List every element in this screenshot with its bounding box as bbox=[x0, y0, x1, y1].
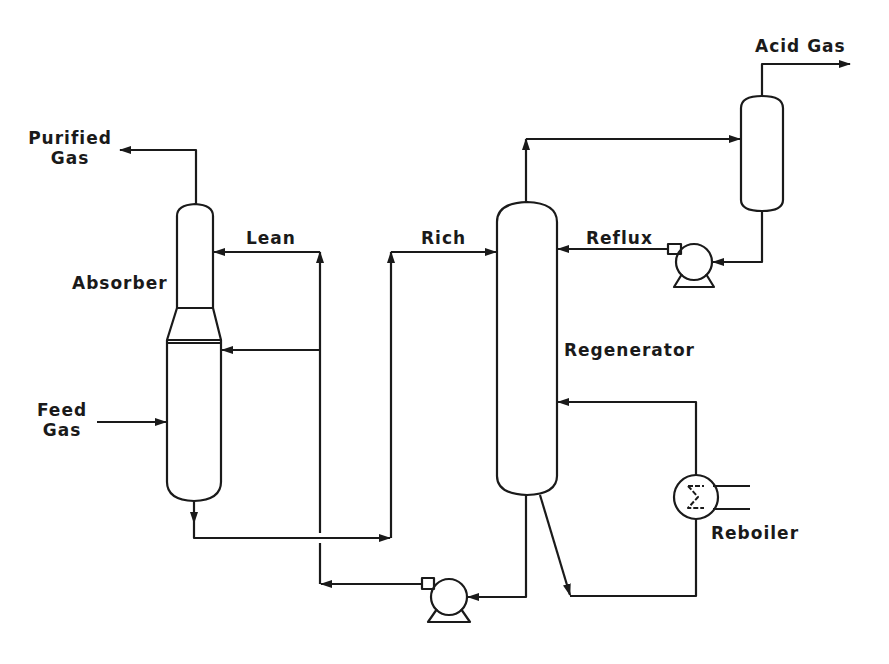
rich-line bbox=[194, 252, 496, 538]
drum-to-pump-line bbox=[713, 211, 762, 262]
absorber-column bbox=[167, 204, 221, 501]
reboiler-label: Reboiler bbox=[711, 523, 799, 543]
lean-label: Lean bbox=[246, 228, 296, 248]
reflux-pump bbox=[668, 244, 714, 287]
regenerator-label: Regenerator bbox=[564, 340, 695, 360]
acid-gas-line bbox=[762, 64, 850, 96]
lean-pump bbox=[422, 578, 470, 622]
feed-gas-label: Feed Gas bbox=[34, 400, 90, 440]
rich-label: Rich bbox=[421, 228, 466, 248]
process-flow-diagram bbox=[0, 0, 889, 664]
purified-gas-line bbox=[120, 150, 196, 204]
reboiler bbox=[674, 475, 750, 519]
reboiler-loop bbox=[540, 402, 696, 596]
regenerator-column bbox=[497, 202, 557, 495]
acid-gas-label: Acid Gas bbox=[755, 36, 846, 56]
reflux-drum bbox=[741, 96, 783, 211]
absorber-label: Absorber bbox=[72, 273, 168, 293]
reflux-label: Reflux bbox=[586, 228, 653, 248]
purified-gas-label: Purified Gas bbox=[28, 128, 112, 168]
bottoms-line bbox=[468, 495, 526, 597]
